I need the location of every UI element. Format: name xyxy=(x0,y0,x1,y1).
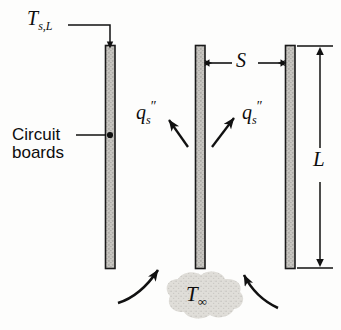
heat-flux-arrow-right xyxy=(212,118,234,147)
middle-circuit-board xyxy=(196,46,206,269)
ambient-temperature-label: T∞ xyxy=(186,283,207,309)
right-circuit-board xyxy=(286,46,296,269)
diagram-canvas xyxy=(0,0,341,330)
surface-temperature-label: Ts,L xyxy=(27,8,52,33)
heat-flux-label-left: qs″ xyxy=(136,99,157,128)
circuit-board-plates xyxy=(106,46,296,269)
circuit-boards-label-line1: Circuit xyxy=(12,126,64,144)
circuit-boards-label: Circuit boards xyxy=(12,126,64,162)
circuit-board-heat-transfer-diagram: Ts,L Circuit boards S L T∞ qs″ qs″ xyxy=(0,0,341,330)
airflow-arrow-left xyxy=(118,270,158,303)
spacing-label: S xyxy=(236,50,246,71)
length-label: L xyxy=(313,148,325,170)
airflow-arrow-right xyxy=(244,275,278,308)
circuit-boards-label-line2: boards xyxy=(12,144,64,162)
left-circuit-board xyxy=(106,46,116,269)
heat-flux-label-right: qs″ xyxy=(242,99,263,128)
heat-flux-arrow-left xyxy=(169,120,188,147)
